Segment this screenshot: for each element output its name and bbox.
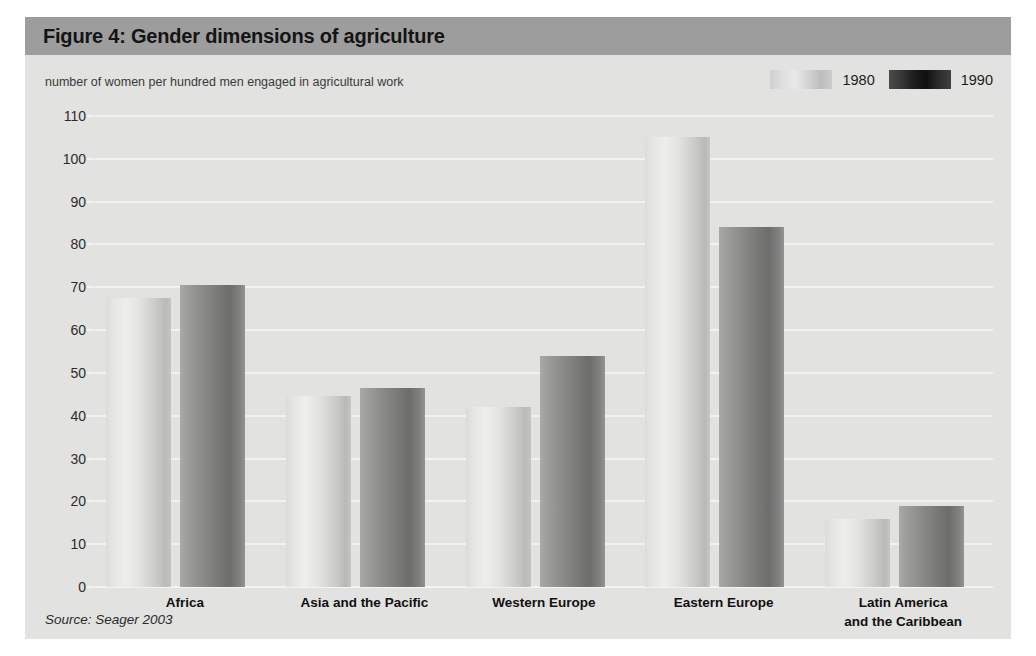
source-note: Source: Seager 2003 (45, 612, 173, 627)
bar-1980 (286, 396, 351, 587)
figure-panel: Figure 4: Gender dimensions of agricultu… (25, 17, 1011, 639)
x-axis-category-label: Asia and the Pacific (275, 593, 455, 612)
y-axis-tick (87, 372, 94, 374)
title-banner: Figure 4: Gender dimensions of agricultu… (25, 17, 1011, 55)
bar-1990 (540, 356, 605, 587)
y-axis-tick (87, 329, 94, 331)
y-axis-tick (87, 115, 94, 117)
x-axis-label-line: Africa (95, 593, 275, 612)
x-axis-label-line: Western Europe (454, 593, 634, 612)
y-axis-tick (87, 458, 94, 460)
x-axis-label-line: and the Caribbean (813, 612, 993, 631)
y-axis-tick (87, 586, 94, 588)
legend-label-1980: 1980 (842, 72, 874, 88)
y-axis-tick (87, 415, 94, 417)
y-axis-label: 30 (70, 451, 86, 467)
chart-subtitle: number of women per hundred men engaged … (45, 75, 404, 89)
legend-item-1980: 1980 (770, 70, 874, 89)
bar-1990 (719, 227, 784, 587)
chart-legend: 1980 1990 (770, 70, 993, 89)
y-axis-tick (87, 500, 94, 502)
y-axis-tick (87, 286, 94, 288)
x-axis-category-labels: AfricaAsia and the PacificWestern Europe… (95, 593, 993, 639)
y-axis-tick (87, 201, 94, 203)
y-axis-label: 90 (70, 194, 86, 210)
bar-1990 (360, 388, 425, 587)
bar-1990 (899, 506, 964, 587)
y-axis-label: 20 (70, 493, 86, 509)
x-axis-label-line: Latin America (813, 593, 993, 612)
x-axis-category-label: Latin Americaand the Caribbean (813, 593, 993, 631)
plot-area: 0102030405060708090100110 (95, 116, 993, 587)
bar-group (95, 116, 993, 587)
y-axis-label: 100 (63, 151, 86, 167)
bar-1980 (106, 298, 171, 587)
y-axis-label: 80 (70, 236, 86, 252)
y-axis-label: 60 (70, 322, 86, 338)
y-axis-label: 50 (70, 365, 86, 381)
x-axis-category-label: Eastern Europe (634, 593, 814, 612)
y-axis-label: 70 (70, 279, 86, 295)
x-axis-category-label: Africa (95, 593, 275, 612)
y-axis-tick (87, 543, 94, 545)
bar-1990 (180, 285, 245, 587)
legend-swatch-1980-icon (770, 70, 832, 89)
x-axis-label-line: Asia and the Pacific (275, 593, 455, 612)
legend-swatch-1990-icon (889, 70, 951, 89)
bar-1980 (825, 519, 890, 588)
page-title: Figure 4: Gender dimensions of agricultu… (43, 25, 445, 48)
x-axis-category-label: Western Europe (454, 593, 634, 612)
y-axis-tick (87, 158, 94, 160)
bar-1980 (466, 407, 531, 587)
legend-item-1990: 1990 (889, 70, 993, 89)
y-axis-label: 40 (70, 408, 86, 424)
x-axis-label-line: Eastern Europe (634, 593, 814, 612)
y-axis-label: 0 (78, 579, 86, 595)
legend-label-1990: 1990 (961, 72, 993, 88)
y-axis-label: 110 (64, 108, 86, 124)
y-axis-label: 10 (70, 536, 86, 552)
y-axis-tick (87, 243, 94, 245)
bar-1980 (645, 137, 710, 587)
